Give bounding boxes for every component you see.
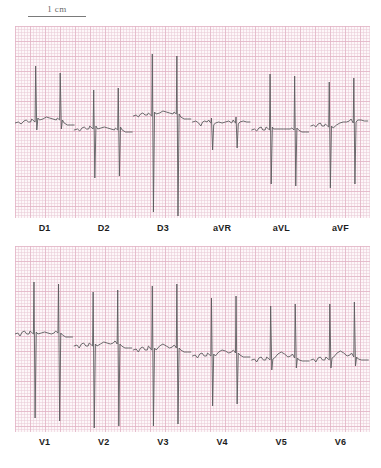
lead-label-avl: aVL [252,220,311,236]
ecg-row-chest-leads [15,246,370,432]
ecg-lead-trace-v5 [252,304,309,370]
lead-label-d1: D1 [15,220,74,236]
ecg-waveform-v2 [74,290,131,428]
ecg-lead-trace-v1 [15,282,72,421]
lead-label-v6: V6 [311,434,370,450]
ecg-waveform-d1 [15,66,74,130]
ecg-lead-trace-v4 [193,296,250,406]
ecg-lead-trace-d3 [133,54,190,216]
calibration-scale-bar: 1 cm [28,4,86,17]
ecg-waveform-d3 [133,54,190,216]
ecg-waveform-v3 [133,284,190,426]
ecg-trace-limb-leads [15,26,370,218]
ecg-lead-trace-v6 [311,302,368,368]
ecg-waveform-avf [311,78,368,188]
lead-label-d2: D2 [74,220,133,236]
ecg-waveform-d2 [74,88,132,178]
ecg-lead-trace-avf [311,78,368,188]
lead-label-v3: V3 [133,434,192,450]
ecg-lead-trace-v2 [74,290,131,428]
ecg-lead-trace-avr [193,117,250,150]
ecg-waveform-v6 [311,302,368,368]
ecg-waveform-avr [193,117,250,150]
lead-label-d3: D3 [133,220,192,236]
lead-label-strip-limb: D1 D2 D3 aVR aVL aVF [15,220,370,236]
calibration-scale-label: 1 cm [28,4,86,15]
lead-label-avf: aVF [311,220,370,236]
ecg-waveform-avl [252,74,309,186]
lead-label-avr: aVR [193,220,252,236]
ecg-lead-trace-d2 [74,88,132,178]
ecg-lead-trace-v3 [133,284,190,426]
ecg-waveform-v1 [15,282,72,421]
lead-label-strip-chest: V1 V2 V3 V4 V5 V6 [15,434,370,450]
ecg-sheet: 1 cm D1 D2 D3 aVR aVL aVF V1 V2 V3 V4 V5… [0,0,381,468]
ecg-lead-trace-avl [252,74,309,186]
lead-label-v5: V5 [252,434,311,450]
scale-bar-icon [28,16,86,17]
ecg-trace-chest-leads [15,246,370,432]
lead-label-v4: V4 [193,434,252,450]
ecg-row-limb-leads [15,26,370,218]
ecg-waveform-v4 [193,296,250,406]
ecg-lead-trace-d1 [15,66,74,130]
lead-label-v2: V2 [74,434,133,450]
lead-label-v1: V1 [15,434,74,450]
ecg-waveform-v5 [252,304,309,370]
